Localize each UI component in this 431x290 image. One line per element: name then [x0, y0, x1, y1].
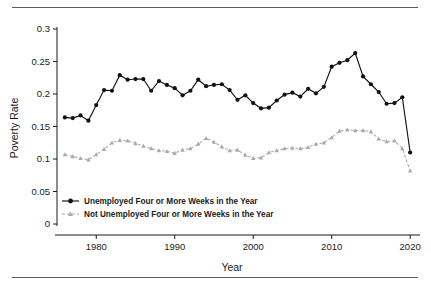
data-point-marker	[290, 91, 294, 95]
data-point-marker	[141, 77, 145, 81]
data-point-marker	[330, 65, 334, 69]
data-point-marker	[267, 150, 271, 154]
filled-circle-marker	[68, 199, 73, 204]
series-line-unemployed	[65, 53, 410, 152]
legend-label-0: Unemployed Four or More Weeks in the Yea…	[84, 197, 258, 206]
plot-area	[63, 51, 413, 172]
legend-label-1: Not Unemployed Four or More Weeks in the…	[84, 210, 274, 219]
y-tick-label: 0.1	[37, 153, 50, 164]
data-point-marker	[243, 153, 247, 157]
data-point-marker	[110, 89, 114, 93]
data-point-marker	[314, 142, 318, 146]
data-point-marker	[306, 145, 310, 149]
data-point-marker	[400, 95, 404, 99]
y-axis-tick-labels: 00.050.10.150.20.250.3	[32, 23, 51, 229]
data-point-marker	[275, 98, 279, 102]
x-tick-label: 1990	[164, 241, 185, 252]
data-point-marker	[126, 78, 130, 82]
x-tick-label: 1980	[86, 241, 107, 252]
data-point-marker	[63, 152, 67, 156]
axis-lines	[53, 27, 420, 239]
data-point-marker	[306, 87, 310, 91]
data-point-marker	[392, 101, 396, 105]
chart-canvas: 00.050.10.150.20.250.3 19801990200020102…	[0, 0, 431, 290]
data-point-marker	[228, 88, 232, 92]
y-tick-label: 0.05	[32, 186, 51, 197]
x-axis-tick-labels: 19801990200020102020	[86, 241, 421, 252]
data-point-marker	[282, 93, 286, 97]
data-point-marker	[385, 102, 389, 106]
data-point-marker	[63, 115, 67, 119]
y-tick-label: 0.2	[37, 88, 50, 99]
data-point-marker	[345, 58, 349, 62]
data-point-marker	[196, 78, 200, 82]
data-point-marker	[369, 82, 373, 86]
data-point-marker	[408, 150, 412, 154]
data-point-marker	[204, 136, 208, 140]
data-point-marker	[149, 89, 153, 93]
data-point-marker	[314, 91, 318, 95]
data-point-marker	[165, 83, 169, 87]
data-point-marker	[377, 90, 381, 94]
data-point-marker	[361, 74, 365, 78]
y-tick-label: 0.25	[32, 56, 51, 67]
data-point-marker	[78, 113, 82, 117]
data-point-marker	[369, 129, 373, 133]
data-point-marker	[267, 106, 271, 110]
data-point-marker	[188, 89, 192, 93]
poverty-rate-line-chart: 00.050.10.150.20.250.3 19801990200020102…	[0, 0, 431, 290]
data-point-marker	[322, 85, 326, 89]
data-point-marker	[86, 119, 90, 123]
data-point-marker	[322, 140, 326, 144]
data-point-marker	[180, 93, 184, 97]
data-point-marker	[377, 137, 381, 141]
data-point-marker	[102, 88, 106, 92]
data-point-marker	[118, 73, 122, 77]
data-point-marker	[157, 79, 161, 83]
data-point-marker	[243, 93, 247, 97]
x-tick-label: 2000	[243, 241, 264, 252]
data-point-marker	[141, 144, 145, 148]
data-point-marker	[94, 152, 98, 156]
x-axis-title: Year	[221, 261, 243, 273]
data-point-marker	[204, 84, 208, 88]
data-point-marker	[251, 101, 255, 105]
data-point-marker	[212, 83, 216, 87]
data-point-marker	[353, 51, 357, 55]
data-point-marker	[298, 95, 302, 99]
x-tick-label: 2020	[400, 241, 421, 252]
data-point-marker	[133, 77, 137, 81]
x-tick-label: 2010	[321, 241, 342, 252]
data-point-marker	[94, 103, 98, 107]
data-point-marker	[220, 82, 224, 86]
y-tick-label: 0.3	[37, 23, 50, 34]
data-point-marker	[180, 148, 184, 152]
data-point-marker	[220, 144, 224, 148]
data-point-marker	[78, 156, 82, 160]
data-point-marker	[173, 86, 177, 90]
y-tick-label: 0	[45, 218, 50, 229]
data-point-marker	[165, 149, 169, 153]
data-point-marker	[345, 127, 349, 131]
data-point-marker	[110, 140, 114, 144]
data-point-marker	[71, 116, 75, 120]
data-point-marker	[235, 98, 239, 102]
data-point-marker	[408, 168, 412, 172]
y-tick-label: 0.15	[32, 121, 51, 132]
data-point-marker	[259, 106, 263, 110]
chart-legend: Unemployed Four or More Weeks in the Yea…	[62, 197, 274, 219]
data-point-marker	[337, 61, 341, 65]
y-axis-title: Poverty Rate	[8, 97, 20, 158]
